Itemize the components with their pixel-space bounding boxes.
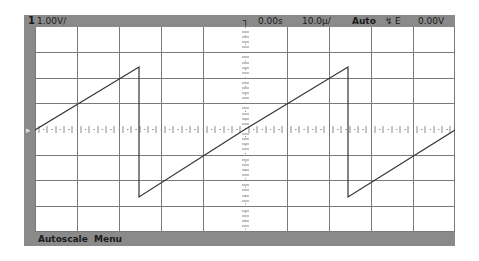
oscilloscope-display: 1 1.00V/ ┐ 0.00s 10.0µ/ Auto ↯ E 0.00V [24,15,455,246]
time-per-div: 10.0µ/ [302,15,331,27]
autoscale-menu-label[interactable]: Autoscale Menu [38,232,122,246]
graticule [35,27,455,232]
falling-edge-icon: ↯ [385,15,393,27]
time-offset: 0.00s [258,15,283,27]
trigger-mode: Auto [352,15,376,27]
channel-number: 1 [28,15,35,27]
waveform-plot [35,27,455,232]
status-bar: 1 1.00V/ ┐ 0.00s 10.0µ/ Auto ↯ E 0.00V [24,15,455,27]
ground-reference-marker: ▸ [26,125,31,135]
trigger-position-marker: ┐ [243,15,248,27]
softkey-bar: Autoscale Menu [24,232,455,246]
trigger-level: 0.00V [418,15,444,27]
trigger-source: E [395,15,401,27]
volts-per-div: 1.00V/ [37,15,66,27]
